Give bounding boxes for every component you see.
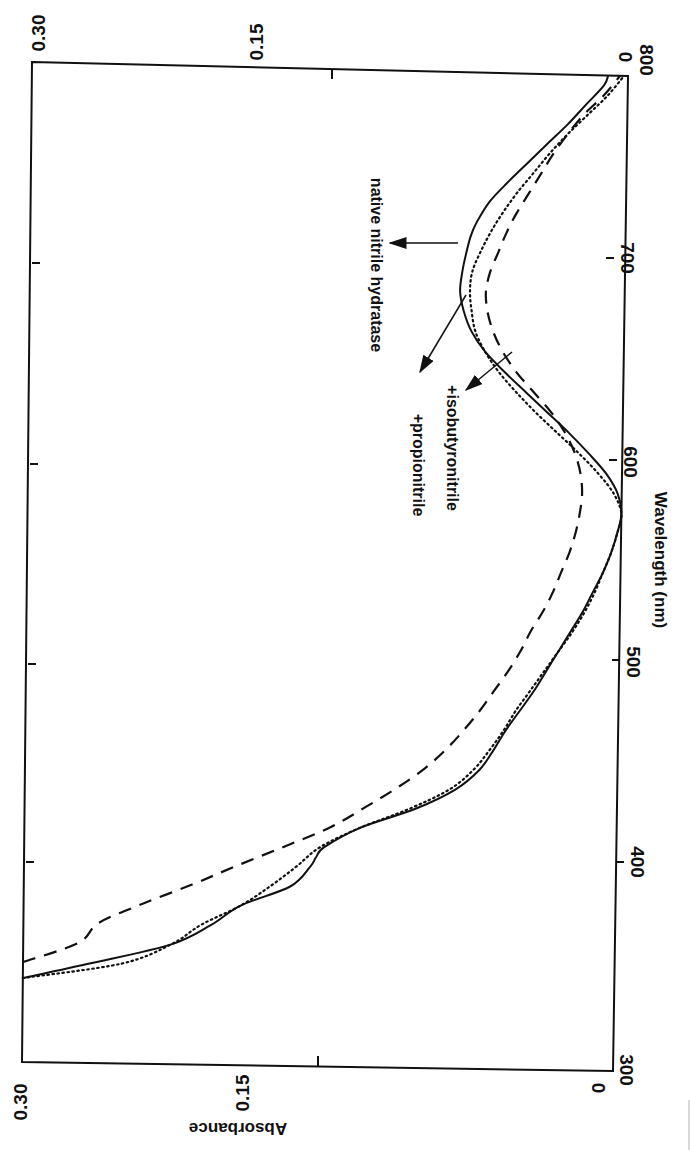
curve-native-nitrile-hydratase [23, 76, 622, 979]
curve-isobutyronitrile [23, 76, 620, 962]
y-bottom-030: 0.30 [10, 1084, 31, 1121]
x-tick-800: 800 [636, 44, 657, 76]
annotation-arrows [390, 243, 512, 390]
absorbance-spectrum-chart: 300 400 500 600 700 800 0.30 0.15 0 0.30… [0, 0, 690, 1150]
plot-frame [22, 62, 628, 1071]
y-tick-labels-top: 0.30 0.15 0 [28, 15, 636, 63]
annot-propionitrile: +propionitrile [410, 414, 427, 517]
x-tick-labels: 300 400 500 600 700 800 [616, 44, 657, 1086]
series-group [23, 76, 624, 979]
y-axis-ticks [318, 69, 332, 1066]
y-top-015: 0.15 [246, 23, 267, 60]
y-top-030: 0.30 [28, 15, 49, 52]
curve-propionitrile [23, 76, 624, 978]
y-bottom-015: 0.15 [232, 1074, 253, 1111]
y-top-0: 0 [615, 52, 636, 63]
x-tick-600: 600 [620, 446, 641, 478]
x-tick-400: 400 [627, 846, 648, 878]
arrow-propio [420, 295, 466, 372]
x-tick-300: 300 [616, 1054, 637, 1086]
y-axis-title: Absorbance [189, 1119, 287, 1138]
y-tick-labels-bottom: 0.30 0.15 0 [10, 1074, 609, 1120]
x-tick-500: 500 [623, 646, 644, 678]
x-tick-700: 700 [617, 242, 638, 274]
y-bottom-0: 0 [588, 1083, 609, 1094]
x-axis-title: Wavelength (nm) [651, 492, 670, 628]
annot-isobutyronitrile: +isobutyronitrile [444, 385, 461, 511]
annot-native-nitrile-hydratase: native nitrile hydratase [368, 178, 385, 352]
